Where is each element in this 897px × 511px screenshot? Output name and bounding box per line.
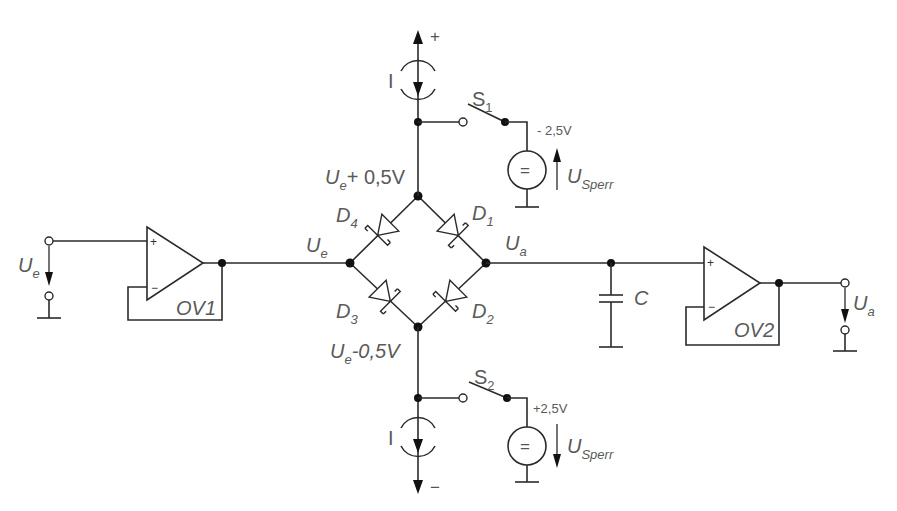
bias1-wire <box>505 122 527 151</box>
input-voltage-label: Ue <box>18 254 40 281</box>
bottom-rail: − I S2 +2,5V = USperr <box>388 327 614 497</box>
opamp-ov2: + − OV2 <box>686 247 841 345</box>
input-voltage-arrowhead-icon <box>45 272 53 286</box>
diode-d3-label: D3 <box>336 300 358 327</box>
diode-bridge: D4 D1 D3 D2 Ue Ua Ue+ 0,5V Ue-0,5V <box>306 166 527 367</box>
output-voltage-label: Ua <box>853 292 875 319</box>
output-terminal-bottom <box>841 326 849 334</box>
bridge-input-label: Ue <box>306 234 328 261</box>
output-voltage-arrowhead-icon <box>841 309 849 323</box>
opamp2-output-node <box>775 279 783 287</box>
opamp2-label: OV2 <box>734 319 774 341</box>
opamp2-minus-sign: − <box>708 300 715 314</box>
s1-open-contact <box>459 118 467 126</box>
supply-positive-label: + <box>430 27 440 46</box>
top-node-voltage-label: Ue+ 0,5V <box>325 166 406 193</box>
current-source-bottom-arrow-icon <box>413 439 423 453</box>
bias2-voltage-label: +2,5V <box>533 401 568 416</box>
supply-negative-label: − <box>430 478 440 497</box>
sample-hold-schematic: Ue + − OV1 <box>0 0 897 511</box>
bridge-output-label: Ua <box>505 232 527 259</box>
usperr1-label: USperr <box>567 165 614 192</box>
supply-positive-arrow-icon <box>413 30 423 44</box>
supply-negative-arrow-icon <box>413 480 423 494</box>
opamp1-label: OV1 <box>176 297 216 319</box>
diode-d4-label: D4 <box>336 204 358 231</box>
bridge-left-node <box>346 259 355 268</box>
dc-symbol-2: = <box>520 437 530 456</box>
opamp1-minus-sign: − <box>151 281 158 295</box>
current-source-top-arrow-icon <box>413 82 423 96</box>
current-source-bottom-label: I <box>388 427 394 449</box>
diode-d2-label: D2 <box>472 300 494 327</box>
bottom-node-voltage-label: Ue-0,5V <box>330 340 401 367</box>
opamp1-plus-sign: + <box>150 235 157 249</box>
output-terminal-group: Ua <box>833 279 875 351</box>
capacitor-label: C <box>634 287 649 309</box>
diode-d1-label: D1 <box>472 202 494 229</box>
hold-capacitor: C <box>486 259 704 347</box>
input-terminal-top <box>45 237 53 245</box>
bias2-wire <box>507 398 527 427</box>
usperr2-arrowhead-icon <box>553 454 561 468</box>
dc-symbol-1: = <box>520 161 530 180</box>
bias1-voltage-label: - 2,5V <box>537 123 572 138</box>
usperr1-arrowhead-icon <box>553 148 561 162</box>
opamp1-output-node <box>218 259 226 267</box>
current-source-top-label: I <box>388 70 394 92</box>
input-terminal-bottom <box>45 292 53 300</box>
opamp2-plus-sign: + <box>707 256 714 270</box>
top-rail: + I S1 - 2,5V = USperr <box>388 27 614 207</box>
output-terminal-top <box>841 279 849 287</box>
s2-open-contact <box>459 394 467 402</box>
usperr2-label: USperr <box>567 435 614 462</box>
